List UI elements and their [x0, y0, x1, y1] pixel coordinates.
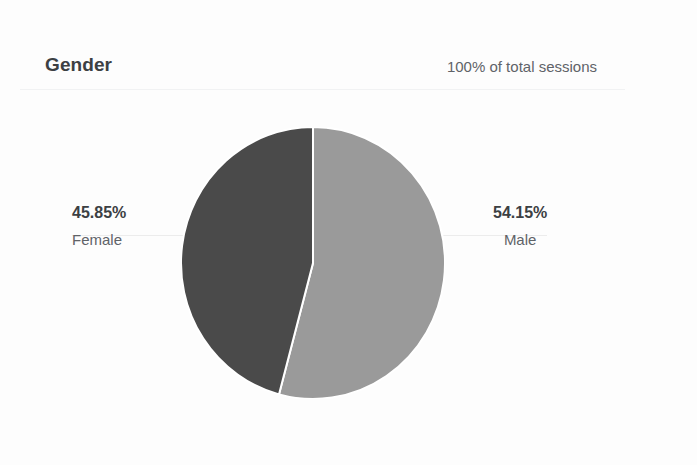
- pie-slices: [181, 127, 445, 399]
- pie-svg: [181, 127, 445, 399]
- slice-name-male: Male: [493, 230, 547, 250]
- card-subtitle: 100% of total sessions: [447, 58, 597, 75]
- slice-label-male: 54.15% Male: [493, 203, 547, 250]
- slice-percent-female: 45.85%: [72, 203, 126, 223]
- slice-name-female: Female: [72, 230, 126, 250]
- slice-percent-male: 54.15%: [493, 203, 547, 223]
- card-title: Gender: [45, 54, 112, 76]
- pie-chart: [181, 127, 445, 399]
- header-divider: [20, 89, 625, 90]
- slice-label-female: 45.85% Female: [72, 203, 126, 250]
- gender-pie-chart-card: Gender 100% of total sessions 45.85% Fem…: [0, 0, 697, 465]
